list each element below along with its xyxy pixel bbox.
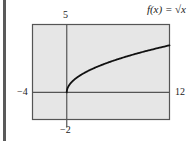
viewing-window-frame [33, 25, 170, 120]
plot-area [0, 0, 192, 141]
